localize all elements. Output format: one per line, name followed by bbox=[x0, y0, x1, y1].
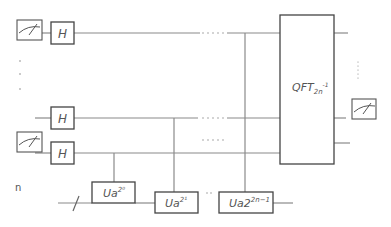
meter-icon bbox=[17, 132, 42, 152]
hadamard-gate: H bbox=[51, 142, 74, 164]
circuit-diagram: H H H QFT2n-1 Ua2⁰ Ua2¹ Ua22n−1 n bbox=[0, 0, 391, 227]
svg-text:H: H bbox=[58, 27, 67, 41]
ua-gate-2-0: Ua2⁰ bbox=[92, 182, 135, 203]
hadamard-gate: H bbox=[51, 22, 74, 44]
ua-gate-2-n-1: Ua22n−1 bbox=[219, 192, 273, 213]
hadamard-gate: H bbox=[51, 107, 74, 129]
register-label: n bbox=[15, 182, 21, 193]
meter-icon bbox=[17, 20, 42, 40]
meter-icon bbox=[352, 99, 376, 119]
ua-gate-2-1: Ua2¹ bbox=[155, 192, 198, 213]
svg-text:H: H bbox=[58, 112, 67, 126]
qft-inverse-gate: QFT2n-1 bbox=[280, 15, 334, 164]
svg-text:H: H bbox=[58, 147, 67, 161]
